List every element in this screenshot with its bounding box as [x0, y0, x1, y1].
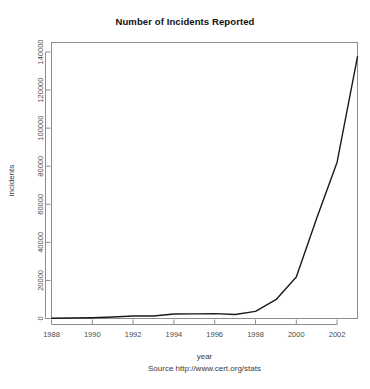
chart-page: Number of Incidents Reported 02000040000… [0, 0, 370, 389]
x-tick-label: 1992 [125, 330, 142, 339]
x-axis-ticks [52, 320, 338, 325]
y-tick-label: 0 [36, 316, 45, 320]
y-tick-label: 40000 [36, 232, 45, 253]
x-tick-label: 1996 [206, 330, 223, 339]
y-tick-label: 120000 [36, 78, 45, 103]
y-axis-ticks [46, 52, 51, 318]
x-tick-label: 1988 [43, 330, 60, 339]
source-caption: Source http://www.cert.org/stats [148, 364, 261, 373]
x-tick-label: 2000 [288, 330, 305, 339]
x-axis-title: year [197, 352, 213, 361]
y-tick-label: 60000 [36, 194, 45, 215]
y-tick-label: 20000 [36, 270, 45, 291]
y-tick-label: 100000 [36, 116, 45, 141]
x-tick-label: 1998 [247, 330, 264, 339]
y-tick-label: 80000 [36, 156, 45, 177]
x-axis-tick-labels: 19881990199219941996199820002002 [43, 330, 345, 339]
x-tick-label: 1990 [84, 330, 101, 339]
line-chart: 020000400006000080000100000120000140000 … [0, 0, 370, 389]
plot-frame [52, 43, 358, 319]
x-tick-label: 1994 [166, 330, 183, 339]
incidents-series-line [52, 57, 358, 319]
y-axis-tick-labels: 020000400006000080000100000120000140000 [36, 40, 45, 321]
y-tick-label: 140000 [36, 40, 45, 65]
y-axis-title: incidents [7, 165, 16, 197]
x-tick-label: 2002 [329, 330, 346, 339]
